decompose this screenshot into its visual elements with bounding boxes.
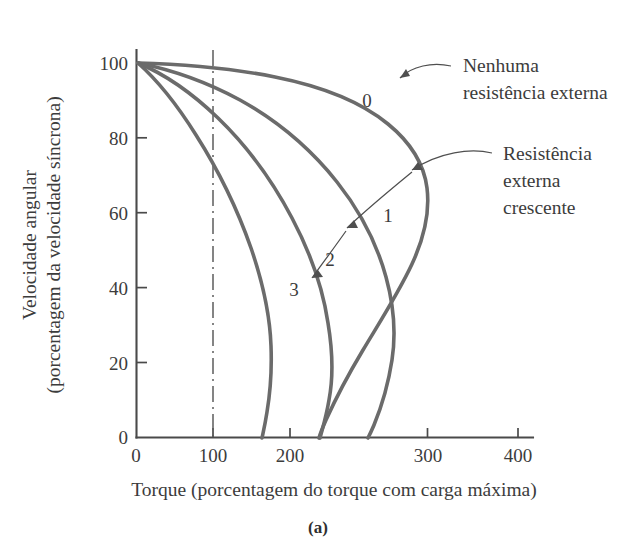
annotation-leader-line-2 <box>412 151 492 170</box>
y-tick-label-60: 60 <box>109 203 128 224</box>
curves-group <box>138 63 428 438</box>
y-tick-label-0: 0 <box>119 427 129 448</box>
y-tick-label-100: 100 <box>100 53 129 74</box>
x-tick-label-300: 300 <box>414 445 443 466</box>
x-tick-label-0: 0 <box>131 445 141 466</box>
curve-label-1: 1 <box>383 205 393 226</box>
x-axis-title: Torque (porcentagem do torque com carga … <box>131 479 536 501</box>
annotation-no-external-resistance: Nenhuma resistência externa <box>400 55 608 103</box>
curve-label-0: 0 <box>362 90 372 111</box>
x-tick-label-100: 100 <box>199 445 228 466</box>
axes-group <box>137 50 534 438</box>
y-tick-labels-group: 100 80 60 40 20 0 <box>100 53 129 448</box>
x-tick-labels-group: 0 100 200 300 400 <box>131 445 532 466</box>
annotation-text-2-line2: externa <box>503 170 561 191</box>
figure-caption: (a) <box>308 518 328 537</box>
y-axis-title-line1: Velocidade angular <box>19 170 40 320</box>
curve-labels-group: 0 1 2 3 <box>289 90 393 300</box>
annotation-text-1-line2: resistência externa <box>463 82 608 103</box>
curve-label-2: 2 <box>325 249 335 270</box>
curve-series-1 <box>138 63 394 438</box>
y-tick-label-40: 40 <box>109 278 128 299</box>
x-tick-label-400: 400 <box>504 445 533 466</box>
curve-series-3 <box>138 63 271 438</box>
y-tick-label-80: 80 <box>109 128 128 149</box>
y-ticks-group <box>137 63 148 363</box>
annotation-leader-branch-3 <box>312 231 346 278</box>
annotation-text-2-line3: crescente <box>503 197 576 218</box>
annotation-arrow-head-1 <box>400 69 410 78</box>
annotation-leader-branch-2 <box>347 172 412 228</box>
annotation-text-1-line1: Nenhuma <box>463 55 539 76</box>
x-tick-label-200: 200 <box>276 445 305 466</box>
y-axis-title-line2: (porcentagem da velocidade síncrona) <box>43 96 65 393</box>
curve-series-0 <box>138 63 428 438</box>
annotation-text-2-line1: Resistência <box>503 143 592 164</box>
y-tick-label-20: 20 <box>109 353 128 374</box>
curve-series-2 <box>138 63 332 438</box>
x-ticks-group <box>213 428 518 438</box>
annotation-increasing-external-resistance: Resistência externa crescente <box>312 143 592 278</box>
figure-container: 100 80 60 40 20 0 0 100 200 300 400 <box>0 0 636 544</box>
torque-speed-chart: 100 80 60 40 20 0 0 100 200 300 400 <box>0 0 636 544</box>
annotation-arrow-head-2b <box>347 220 358 228</box>
curve-label-3: 3 <box>289 279 299 300</box>
